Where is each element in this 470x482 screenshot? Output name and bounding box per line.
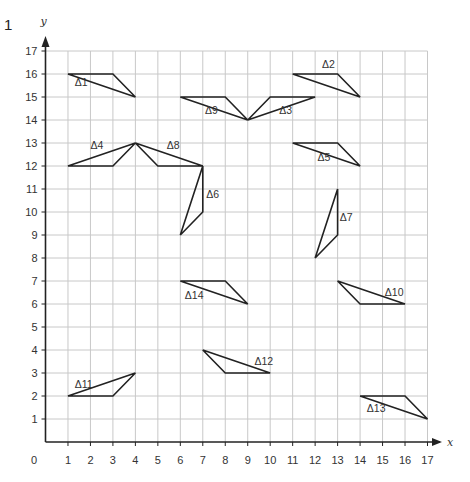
y-tick-label: 1 [31,413,37,425]
y-tick-label: 5 [31,321,37,333]
origin-label: 0 [31,454,37,466]
y-tick-label: 9 [31,229,37,241]
x-tick-label: 9 [245,454,251,466]
y-tick-label: 11 [26,183,37,195]
triangle-label: Δ11 [75,378,93,390]
y-axis-arrow-icon [42,36,50,47]
y-tick-label: 12 [25,160,37,172]
x-tick-label: 12 [309,454,321,466]
x-tick-label: 3 [110,454,116,466]
x-axis-label: x [447,436,454,449]
triangle-label: Δ8 [167,139,180,151]
x-tick-label: 4 [132,454,138,466]
triangle-outline [180,166,202,235]
triangle-outline [315,189,337,258]
triangle-label: Δ3 [279,104,292,116]
triangle-label: Δ14 [185,289,204,301]
y-tick-label: 2 [31,390,37,402]
x-tick-label: 15 [376,454,388,466]
triangle: Δ10 [338,281,405,304]
triangle-label: Δ2 [322,58,335,70]
y-tick-label: 10 [25,206,37,218]
triangle: Δ5 [293,143,360,166]
x-tick-label: 8 [222,454,228,466]
triangle: Δ11 [68,373,135,396]
x-tick-label: 2 [87,454,93,466]
triangle: Δ9 [180,97,247,120]
x-tick-label: 1 [65,454,71,466]
y-tick-label: 16 [25,68,37,80]
x-tick-label: 17 [421,454,433,466]
triangle-label: Δ7 [340,211,353,223]
triangle: Δ6 [180,166,219,235]
triangle-label: Δ6 [206,188,219,200]
triangle-label: Δ12 [254,355,273,367]
y-tick-label: 4 [31,344,37,356]
y-tick-label: 7 [31,275,37,287]
x-tick-label: 11 [287,454,298,466]
coordinate-grid: xy 0123456789101112131415161712345678910… [0,0,470,482]
y-tick-label: 15 [25,91,37,103]
triangle: Δ2 [293,58,360,97]
y-tick-label: 8 [31,252,37,264]
x-axis-arrow-icon [432,438,442,446]
x-tick-label: 13 [331,454,343,466]
triangle-outline [293,74,360,97]
x-tick-label: 14 [354,454,366,466]
triangle-label: Δ4 [90,139,103,151]
triangle-label: Δ9 [205,104,218,116]
x-tick-label: 7 [200,454,206,466]
triangle-label: Δ13 [367,402,386,414]
triangle-label: Δ5 [317,151,330,163]
triangle-label: Δ1 [75,76,88,88]
x-tick-label: 5 [155,454,161,466]
triangle: Δ3 [248,97,315,120]
x-tick-label: 10 [264,454,276,466]
x-tick-label: 6 [177,454,183,466]
y-axis-label: y [40,15,48,28]
triangle: Δ12 [203,350,274,373]
triangle: Δ13 [360,396,427,419]
y-tick-label: 13 [25,137,37,149]
triangle: Δ14 [180,281,247,304]
triangle: Δ7 [315,189,353,258]
y-tick-label: 17 [25,45,37,57]
y-tick-label: 14 [25,114,37,126]
x-tick-label: 16 [399,454,411,466]
y-tick-label: 6 [31,298,37,310]
triangle: Δ1 [68,74,135,97]
triangle-label: Δ10 [385,286,404,298]
y-tick-label: 3 [31,367,37,379]
